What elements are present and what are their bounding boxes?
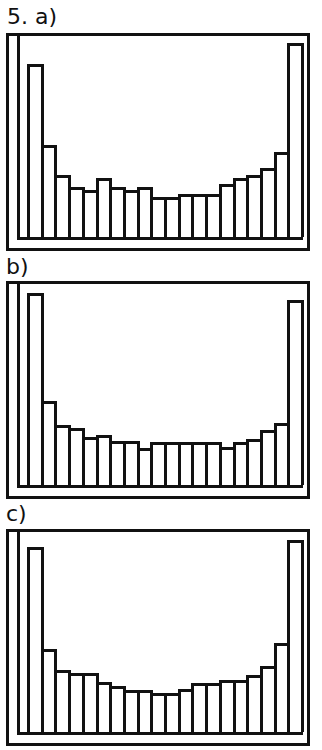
histogram-panel-b <box>6 281 310 499</box>
figure-number-label: 5. a) <box>7 6 57 28</box>
histogram-bar <box>287 300 304 485</box>
panel-b-label: b) <box>6 256 29 278</box>
plot-area-b <box>17 284 303 488</box>
bar-series-a <box>27 36 301 237</box>
plot-area-c <box>17 532 303 735</box>
histogram-panel-c <box>6 529 310 746</box>
bar-series-b <box>27 284 301 485</box>
histogram-bar <box>287 540 304 732</box>
figure-number: 5. <box>7 4 28 29</box>
panel-a-label: a) <box>35 4 57 29</box>
histogram-bar <box>287 43 304 237</box>
bar-series-c <box>27 532 301 732</box>
plot-area-a <box>17 36 303 240</box>
panel-c-label: c) <box>6 503 27 525</box>
histogram-panel-a <box>6 33 310 251</box>
